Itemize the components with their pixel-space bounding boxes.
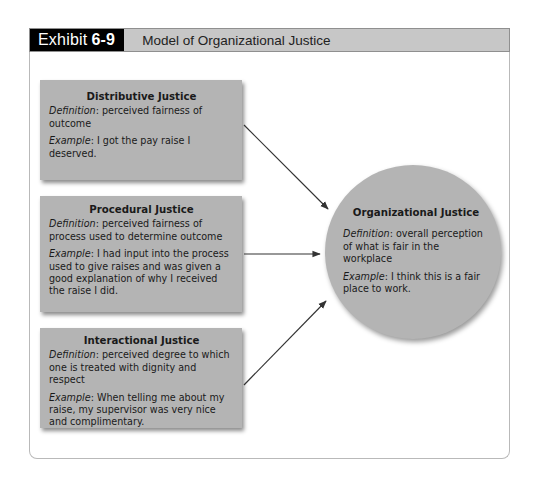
- arrows: [0, 0, 533, 481]
- arrow-interactional: [244, 301, 326, 385]
- arrow-distributive: [244, 125, 328, 209]
